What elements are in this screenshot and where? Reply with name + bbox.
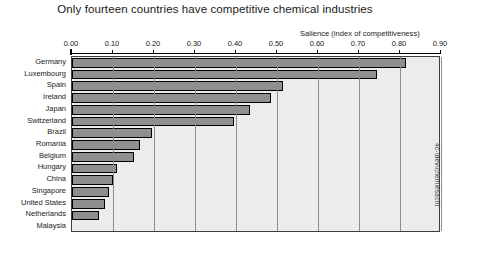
x-axis-tick — [235, 50, 236, 54]
x-tick-label: 0.80 — [392, 39, 407, 48]
y-category-label: Brazil — [47, 128, 66, 136]
bars-layer — [72, 57, 439, 231]
gridline — [277, 57, 278, 231]
gridline — [113, 57, 114, 231]
y-category-label: Switzerland — [27, 117, 66, 125]
bar — [72, 164, 117, 174]
gridline — [236, 57, 237, 231]
x-axis-tick — [399, 50, 400, 54]
bar — [72, 81, 283, 91]
chart-title: Only fourteen countries have competitive… — [30, 2, 400, 16]
x-tick-label: 0.20 — [146, 39, 161, 48]
x-axis-title: Salience (index of competitiveness) — [300, 29, 420, 38]
bar — [72, 140, 140, 150]
gridline — [154, 57, 155, 231]
y-category-label: Netherlands — [26, 210, 66, 218]
gridline — [400, 57, 401, 231]
y-category-label: China — [46, 175, 66, 183]
x-tick-label: 0.50 — [269, 39, 284, 48]
x-tick-label: 0.30 — [187, 39, 202, 48]
bar — [72, 128, 152, 138]
bar — [72, 175, 113, 185]
x-tick-label: 0.00 — [64, 39, 79, 48]
x-axis-tick — [194, 50, 195, 54]
bar — [72, 58, 406, 68]
bar — [72, 93, 271, 103]
y-category-label: Romania — [36, 140, 66, 148]
x-tick-label: 0.90 — [433, 39, 448, 48]
x-tick-label: 0.60 — [310, 39, 325, 48]
y-category-label: Singapore — [32, 187, 66, 195]
x-axis-tick — [276, 50, 277, 54]
gridline — [441, 57, 442, 231]
y-category-label: Germany — [35, 58, 66, 66]
bar — [72, 187, 109, 197]
bar — [72, 70, 377, 80]
chart-container: Only fourteen countries have competitive… — [0, 0, 477, 257]
y-category-label: Ireland — [43, 93, 66, 101]
x-axis-tick — [440, 50, 441, 54]
y-category-label: Japan — [46, 105, 66, 113]
x-axis-tick — [153, 50, 154, 54]
x-axis-tick — [71, 50, 72, 54]
bar — [72, 152, 134, 162]
plot-area — [71, 56, 440, 232]
y-axis-category-labels: GermanyLuxembourgSpainIrelandJapanSwitze… — [0, 56, 69, 232]
y-category-label: Malaysia — [36, 222, 66, 230]
bar — [72, 199, 105, 209]
x-axis-tick — [317, 50, 318, 54]
y-category-label: Belgium — [39, 152, 66, 160]
gridline — [359, 57, 360, 231]
gridline — [318, 57, 319, 231]
x-tick-label: 0.10 — [105, 39, 120, 48]
bar — [72, 105, 250, 115]
y-category-label: Hungary — [38, 163, 66, 171]
x-tick-label: 0.70 — [351, 39, 366, 48]
side-note-label: 4c-\dev\chemiesacht — [434, 143, 441, 206]
x-axis-tick — [358, 50, 359, 54]
gridline — [195, 57, 196, 231]
bar — [72, 117, 234, 127]
bar — [72, 211, 99, 221]
x-tick-label: 0.40 — [228, 39, 243, 48]
y-category-label: Spain — [47, 81, 66, 89]
y-category-label: United States — [21, 199, 66, 207]
x-axis-tick — [112, 50, 113, 54]
y-category-label: Luxembourg — [24, 70, 66, 78]
x-axis-line — [71, 53, 440, 54]
